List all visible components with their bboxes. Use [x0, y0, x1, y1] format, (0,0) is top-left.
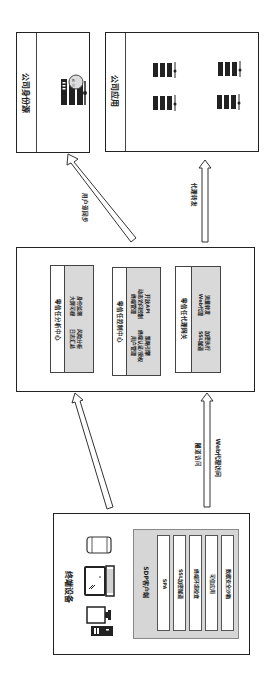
- mobile-phone-icon: [86, 536, 112, 554]
- label-proxy-forward: 代理转发: [190, 183, 197, 207]
- control-line: 动态访问控制: [137, 289, 144, 319]
- control-line: 开放API: [144, 294, 151, 313]
- company-apps-title: 公司应用: [110, 75, 121, 107]
- svg-text:|||: |||: [72, 83, 75, 87]
- sdp-client-panel: SDP客户端 SPA SSL加密隧道 终端环境检查 可信应用 数据安全沙箱: [133, 529, 239, 639]
- control-line: 终端管理: [130, 294, 137, 314]
- analysis-center-title: 零信任分析中心: [54, 299, 61, 341]
- sdp-item-spa: SPA: [157, 535, 170, 631]
- terminal-devices-title: 终端设备: [64, 571, 75, 603]
- gateway-line: 加密执行: [204, 331, 211, 351]
- identity-source-box: 公司身份源 R |||: [16, 32, 90, 153]
- sdp-item-env-check: 终端环境检查: [189, 535, 202, 631]
- analysis-line: 风险分析: [76, 329, 83, 349]
- zero-trust-platform-box: 零信任分析中心 日志汇总 风险分析 大屏可视 身份监测 零信任控制中心 用户管理…: [16, 247, 255, 392]
- server-rack-icon: [153, 95, 181, 111]
- control-center-title: 零信任控制中心: [116, 301, 123, 343]
- terminal-devices-box: 终端设备 SDP客户端 SPA SSL加密隧道 终端环境检查 可信应用 数据安全…: [53, 513, 250, 655]
- company-apps-box: 公司应用: [105, 32, 259, 152]
- control-line: 终端认证/授权: [137, 330, 144, 362]
- label-tunnel-access: 隧道访问: [194, 443, 201, 467]
- analysis-line: 日志汇总: [69, 329, 76, 349]
- label-web-proxy-access: Web代理访问: [215, 439, 222, 478]
- gateway-line: SSL隧道: [197, 331, 204, 351]
- gateway-line: 流量转发: [204, 295, 211, 315]
- identity-source-title: 公司身份源: [21, 73, 32, 113]
- arrow-proxy-forward: [199, 160, 211, 242]
- sdp-item-data-sandbox: 数据安全沙箱: [221, 535, 234, 631]
- arrow-web-proxy: [201, 393, 213, 507]
- arrow-user-sync: [67, 154, 136, 242]
- laptop-icon: [84, 565, 116, 597]
- sdp-client-title: SDP客户端: [143, 566, 150, 598]
- server-rack-icon: [153, 62, 181, 78]
- gateway-line: Web代理: [197, 294, 204, 316]
- server-rack-icon: [218, 61, 246, 77]
- analysis-center-box: 零信任分析中心 日志汇总 风险分析 大屏可视 身份监测: [50, 265, 94, 373]
- proxy-gateway-title: 零信任代理网关: [180, 298, 187, 340]
- arrow-tunnel-diagonal: [72, 393, 113, 509]
- label-user-sync: 用户源同步: [81, 193, 88, 223]
- analysis-line: 身份监测: [76, 296, 83, 316]
- sdp-item-trusted-app: 可信应用: [205, 535, 218, 631]
- sdp-item-ssl-tunnel: SSL加密隧道: [173, 535, 186, 631]
- proxy-gateway-box: 零信任代理网关 SSL隧道 加密执行 Web代理 流量转发: [175, 266, 221, 373]
- desktop-computer-icon: [86, 606, 116, 638]
- control-line: 用户管理: [130, 336, 137, 356]
- control-center-box: 零信任控制中心 用户管理 终端认证/授权 策略引擎 终端管理 动态访问控制 开放…: [112, 267, 161, 376]
- identity-server-magnifier-icon: R |||: [61, 73, 91, 113]
- control-line: 策略引擎: [144, 336, 151, 356]
- analysis-line: 大屏可视: [69, 296, 76, 316]
- server-rack-icon: [217, 94, 245, 110]
